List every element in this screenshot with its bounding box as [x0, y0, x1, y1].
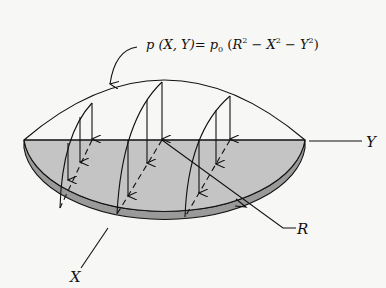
x-axis-label: X — [69, 268, 82, 286]
pressure-dome-outline — [24, 80, 305, 140]
disk-pressure-diagram: Y X R — [0, 0, 386, 288]
radius-label: R — [296, 220, 308, 238]
formula-leader — [110, 47, 137, 84]
disk-top-face — [24, 140, 305, 211]
y-axis-label: Y — [366, 133, 378, 151]
x-axis-line — [81, 228, 108, 268]
